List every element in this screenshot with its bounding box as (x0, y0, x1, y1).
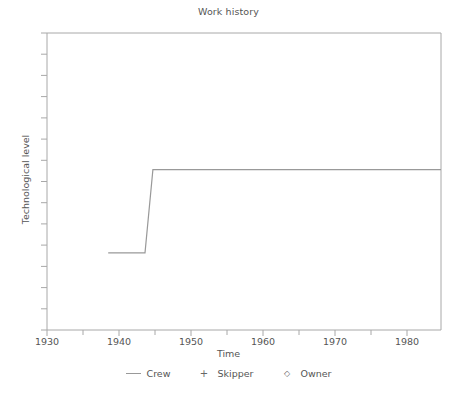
line-key-icon (126, 369, 141, 379)
chart-figure: Work history (0, 0, 457, 400)
y-axis-label: Technological level (20, 100, 31, 260)
x-tick-label-1970: 1970 (315, 336, 355, 347)
legend-label-owner: Owner (300, 368, 331, 379)
chart-legend: Crew + Skipper ◇ Owner (0, 368, 457, 379)
x-tick-label-1960: 1960 (243, 336, 283, 347)
plot-frame (47, 33, 441, 330)
legend-label-skipper: Skipper (217, 368, 253, 379)
legend-entry-skipper: + Skipper (196, 368, 253, 379)
legend-entry-owner: ◇ Owner (279, 368, 331, 379)
series-line-crew (108, 170, 441, 253)
plus-marker-icon: + (196, 369, 211, 379)
legend-label-crew: Crew (147, 368, 171, 379)
x-tick-label-1980: 1980 (387, 336, 427, 347)
y-axis-ticks (41, 33, 47, 330)
diamond-marker-icon: ◇ (279, 369, 294, 379)
x-tick-label-1940: 1940 (99, 336, 139, 347)
x-axis-label: Time (0, 348, 457, 359)
x-tick-label-1930: 1930 (27, 336, 67, 347)
legend-entry-crew: Crew (126, 368, 171, 379)
x-axis-ticks-minor (83, 330, 371, 335)
x-tick-label-1950: 1950 (171, 336, 211, 347)
